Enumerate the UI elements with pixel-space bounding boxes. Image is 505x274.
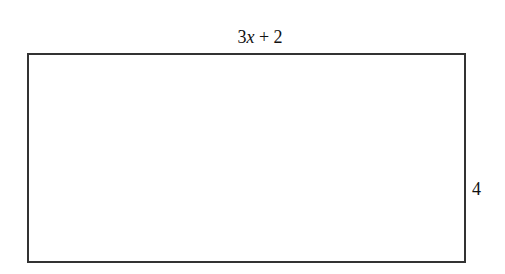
rectangle	[27, 53, 466, 263]
height-label: 4	[472, 180, 481, 198]
width-label: 3x + 2	[210, 28, 310, 46]
width-constant: + 2	[254, 27, 282, 47]
